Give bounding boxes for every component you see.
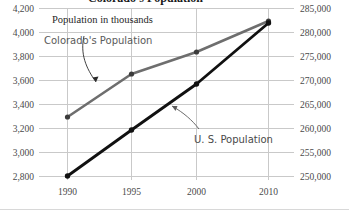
left-tick-2: 3,800: [13, 52, 35, 62]
population-line-chart: Colorado's Population: [0, 0, 349, 210]
right-tick-1: 280,000: [300, 28, 331, 38]
us-series-label: U. S. Population: [194, 134, 273, 145]
left-tick-7: 2,800: [13, 172, 35, 182]
us-point-2000: [194, 81, 199, 86]
colorado-point-1995: [129, 71, 134, 76]
left-tick-1: 4,000: [13, 28, 35, 38]
left-axis-ticks: 4,200 4,000 3,800 3,600 3,400 3,200 3,00…: [13, 4, 35, 182]
left-tick-5: 3,200: [13, 124, 35, 134]
plot-area: 4,200 4,000 3,800 3,600 3,400 3,200 3,00…: [0, 0, 349, 210]
right-tick-4: 265,000: [300, 100, 331, 110]
x-tick-2010: 2010: [259, 187, 278, 197]
right-axis-ticks: 285,000 280,000 275,000 270,000 265,000 …: [300, 4, 331, 182]
right-tick-3: 270,000: [300, 76, 331, 86]
us-callout-arrow: [172, 106, 199, 129]
x-axis-ticks: 1990 1995 2000 2010: [58, 187, 278, 197]
right-tick-0: 285,000: [300, 4, 331, 14]
us-point-1995: [129, 127, 134, 132]
left-tick-0: 4,200: [13, 4, 35, 14]
x-tick-1995: 1995: [122, 187, 141, 197]
right-tick-6: 255,000: [300, 148, 331, 158]
x-tick-1990: 1990: [58, 187, 77, 197]
left-tick-3: 3,600: [13, 76, 35, 86]
right-tick-2: 275,000: [300, 52, 331, 62]
colorado-point-1990: [65, 114, 70, 119]
right-tick-5: 260,000: [300, 124, 331, 134]
right-tick-7: 250,000: [300, 172, 331, 182]
left-axis-caption: Population in thousands: [52, 14, 153, 25]
colorado-arrow-head: [93, 77, 99, 83]
left-tick-6: 3,000: [13, 148, 35, 158]
us-point-1990: [65, 173, 70, 178]
left-tick-4: 3,400: [13, 100, 35, 110]
us-point-2010: [266, 20, 271, 25]
colorado-series-label: Colorado's Population: [44, 35, 152, 46]
colorado-point-2000: [194, 49, 199, 54]
x-tick-2000: 2000: [187, 187, 206, 197]
